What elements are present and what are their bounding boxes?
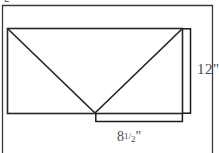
envelope-diagram: g 12" 81/2": [0, 0, 219, 153]
width-dimension-bracket: [96, 114, 184, 123]
diagram-canvas: [0, 0, 219, 153]
width-unit-mark: ": [136, 129, 142, 144]
height-dimension-bracket: [183, 29, 191, 114]
width-fraction: 1/2: [124, 132, 136, 144]
envelope-rectangle: [8, 29, 183, 114]
height-dimension-label: 12": [197, 62, 219, 77]
width-whole-number: 8: [117, 129, 124, 144]
width-dimension-label: 81/2": [117, 130, 141, 144]
